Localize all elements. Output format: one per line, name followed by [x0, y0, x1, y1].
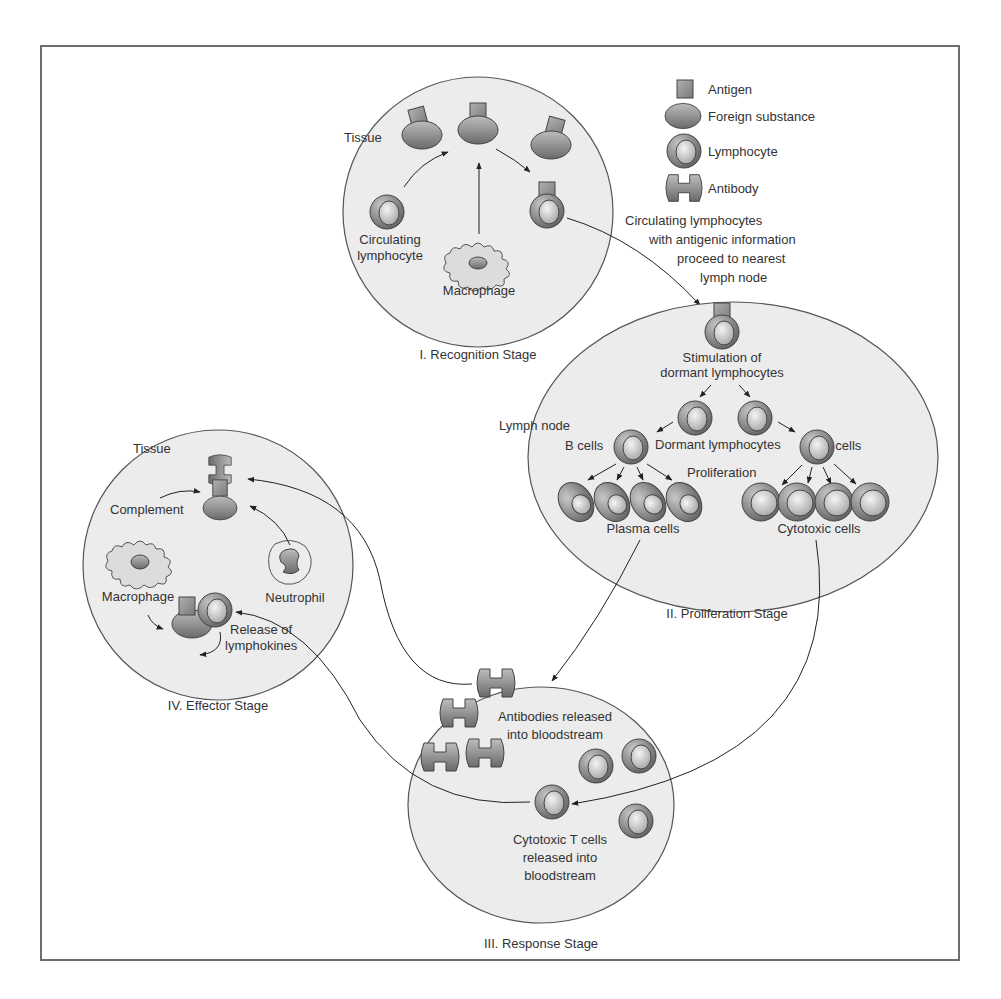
cytotoxic-t-cell-icon — [579, 749, 613, 783]
transit-note-line-1: Circulating lymphocytes — [625, 213, 763, 228]
transit-note-line-3: proceed to nearest — [677, 251, 786, 266]
stimulation-label-1: Stimulation of — [683, 350, 762, 365]
plasma-cells-label: Plasma cells — [607, 521, 680, 536]
cytotoxic-cell-icon — [815, 483, 853, 521]
antibodies-label-2: into bloodstream — [507, 727, 603, 742]
proliferation-stage: Stimulation of dormant lymphocytes Lymph… — [499, 302, 938, 621]
proliferation-stage-title: II. Proliferation Stage — [666, 606, 787, 621]
neutrophil-label: Neutrophil — [265, 590, 324, 605]
cytotoxic-t-cell-icon — [535, 785, 569, 819]
tissue-label: Tissue — [344, 130, 382, 145]
cytotoxic-t-cell-icon — [622, 739, 656, 773]
complement-label: Complement — [110, 502, 184, 517]
dormant-lymphocytes-label: Dormant lymphocytes — [655, 437, 781, 452]
legend: Antigen Foreign substance Lymphocyte Ant… — [665, 80, 815, 201]
b-cell-icon — [614, 430, 648, 464]
recognition-stage-title: I. Recognition Stage — [419, 347, 536, 362]
response-stage: Antibodies released into bloodstream Cyt… — [408, 669, 674, 951]
effector-tissue-label: Tissue — [133, 441, 171, 456]
transit-note-line-2: with antigenic information — [648, 232, 796, 247]
antibody-icon — [477, 669, 515, 697]
legend-antibody-label: Antibody — [708, 181, 759, 196]
antibodies-label-1: Antibodies released — [498, 709, 612, 724]
release-label-1: Release of — [230, 622, 293, 637]
effector-stage: Tissue Complement Macrophage Neutrophil … — [83, 430, 353, 713]
response-stage-title: III. Response Stage — [484, 936, 598, 951]
antigen-icon — [179, 597, 195, 615]
cytotoxic-t-cell-icon — [619, 804, 653, 838]
antibody-icon — [666, 175, 702, 202]
dormant-lymphocyte-icon — [738, 401, 772, 435]
transit-note: Circulating lymphocytes with antigenic i… — [625, 213, 796, 285]
stimulation-label-2: dormant lymphocytes — [660, 365, 784, 380]
legend-antigen-label: Antigen — [708, 82, 752, 97]
tcells-label-3: bloodstream — [524, 868, 596, 883]
circulating-lymphocyte-label-1: Circulating — [359, 232, 420, 247]
proliferation-label: Proliferation — [687, 465, 756, 480]
cytotoxic-cell-icon — [851, 483, 889, 521]
lymphocyte-icon — [667, 134, 701, 168]
antigen-icon — [677, 80, 693, 98]
activated-lymphocyte-icon — [198, 593, 232, 627]
b-cells-label: B cells — [565, 438, 604, 453]
lymph-node-label: Lymph node — [499, 418, 570, 433]
immune-response-diagram: Tissue Circulating lymphocyte Macrophage — [0, 0, 1001, 999]
t-cell-icon — [800, 430, 834, 464]
cytotoxic-cell-icon — [778, 483, 816, 521]
legend-lymphocyte-label: Lymphocyte — [708, 144, 778, 159]
circulating-lymphocyte-label-2: lymphocyte — [357, 248, 423, 263]
tcells-label-2: released into — [523, 850, 597, 865]
macrophage-label: Macrophage — [443, 283, 515, 298]
neutrophil-icon — [269, 540, 312, 584]
effector-macrophage-label: Macrophage — [102, 589, 174, 604]
dormant-lymphocyte-icon — [678, 401, 712, 435]
cytotoxic-cell-icon — [742, 483, 780, 521]
legend-foreign-substance-label: Foreign substance — [708, 109, 815, 124]
foreign-substance-icon — [665, 103, 701, 128]
transit-note-line-4: lymph node — [700, 270, 767, 285]
cytotoxic-cells-label: Cytotoxic cells — [777, 521, 861, 536]
tcells-label-1: Cytotoxic T cells — [513, 832, 608, 847]
release-label-2: lymphokines — [225, 638, 298, 653]
effector-stage-title: IV. Effector Stage — [168, 698, 268, 713]
lymph-node-ellipse — [528, 302, 938, 612]
circulating-lymphocyte-icon — [370, 195, 404, 229]
